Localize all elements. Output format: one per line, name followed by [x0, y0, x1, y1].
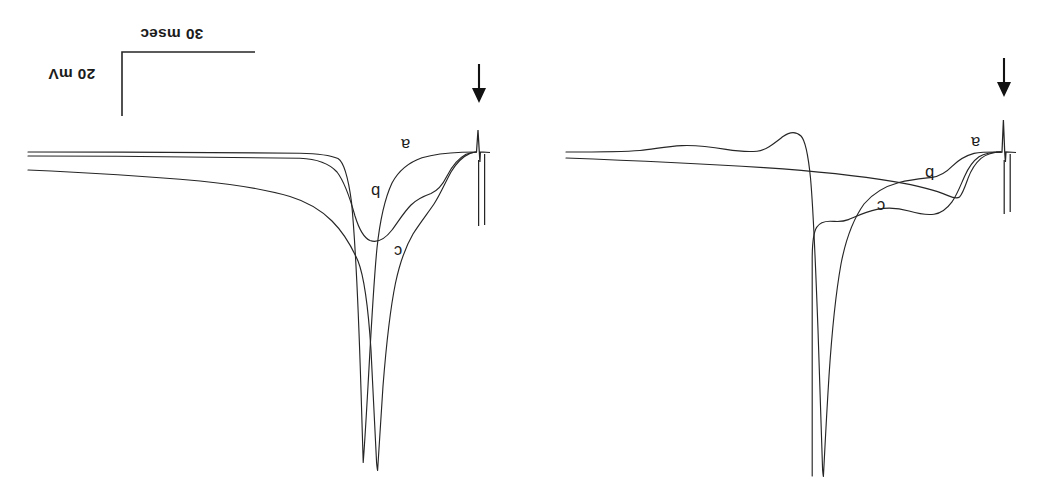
right-trace-b: [566, 152, 1001, 198]
left-trace-a: [28, 152, 477, 463]
arrow-head-right: [997, 82, 1011, 97]
left-trace-b: [28, 152, 477, 241]
scale-bar: [122, 52, 255, 116]
left-trace-c: [28, 152, 477, 471]
arrow-head-left: [472, 88, 486, 103]
left-trace-label-b: b: [371, 183, 380, 200]
left-artifact-upstroke: [477, 130, 491, 162]
right-stimulus-arrow: [997, 58, 1011, 97]
scale-bar-time-label: 30 msec: [140, 26, 203, 42]
left-panel-traces: [28, 64, 490, 471]
left-trace-label-a: a: [401, 136, 410, 153]
right-trace-label-a: a: [971, 134, 980, 151]
right-stimulus-artifact: [996, 120, 1016, 214]
right-trace-a: [566, 133, 1001, 477]
traces-svg: [0, 0, 1037, 498]
figure-canvas: 30 msec 20 mV a b c a b c: [0, 0, 1037, 498]
left-trace-label-c: c: [394, 243, 402, 260]
right-trace-c: [812, 152, 1001, 476]
right-panel-traces: [566, 58, 1016, 477]
right-trace-label-c: c: [877, 198, 885, 215]
scale-bar-voltage-label: 20 mV: [48, 66, 95, 82]
right-trace-label-b: b: [925, 165, 934, 182]
left-stimulus-arrow: [472, 64, 486, 103]
scale-bar-corner: [122, 52, 255, 116]
right-artifact-upstroke: [996, 120, 1016, 162]
left-stimulus-artifact: [477, 130, 491, 226]
